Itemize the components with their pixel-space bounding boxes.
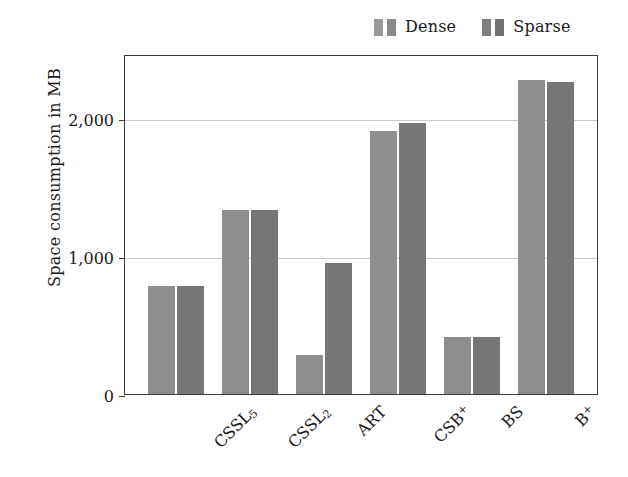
bar-chart-figure: Dense Sparse Space consumption in MB 01,… xyxy=(0,0,628,477)
legend-swatch-sparse-dark xyxy=(495,19,504,36)
legend-label-dense: Dense xyxy=(405,19,456,35)
bar-series-container xyxy=(125,56,597,394)
bar-group xyxy=(370,123,426,394)
legend-entry-sparse: Sparse xyxy=(482,19,570,36)
x-tick-label: B+ xyxy=(571,402,599,430)
bar xyxy=(325,263,352,394)
bar xyxy=(177,286,204,394)
bar xyxy=(296,355,323,394)
bar-group xyxy=(148,286,204,394)
x-tick-label: ART xyxy=(353,402,390,439)
bar xyxy=(148,286,175,394)
bar xyxy=(251,210,278,394)
bar xyxy=(222,210,249,394)
bar xyxy=(518,80,545,394)
legend-swatch-dense-light xyxy=(374,19,383,36)
bar-group xyxy=(222,210,278,394)
chart-legend: Dense Sparse xyxy=(374,14,571,40)
legend-label-sparse: Sparse xyxy=(513,19,570,35)
x-axis-tick-labels: CSSL5CSSL2ARTCSB+BSB+ xyxy=(124,396,598,477)
legend-swatch-dense xyxy=(374,19,396,36)
bar xyxy=(473,337,500,394)
y-axis-title: Space consumption in MB xyxy=(45,13,64,343)
plot-inner: 01,0002,000 xyxy=(125,56,597,394)
bar xyxy=(370,131,397,394)
legend-swatch-sparse-light xyxy=(482,19,491,36)
plot-area: 01,0002,000 xyxy=(124,55,598,395)
y-tick-label-1000: 1,000 xyxy=(68,248,114,267)
y-tick-label-0: 0 xyxy=(104,387,114,406)
bar xyxy=(399,123,426,394)
x-tick-label: CSB+ xyxy=(430,402,475,447)
x-tick-label: CSSL5 xyxy=(210,402,261,453)
x-tick-label: CSSL2 xyxy=(284,402,335,453)
legend-swatch-dense-dark xyxy=(387,19,396,36)
bar-group xyxy=(444,337,500,394)
bar xyxy=(444,337,471,394)
bar xyxy=(547,82,574,394)
y-tick-label-2000: 2,000 xyxy=(68,110,114,129)
legend-entry-dense: Dense xyxy=(374,19,456,36)
legend-swatch-sparse xyxy=(482,19,504,36)
x-tick-label: BS xyxy=(498,402,527,431)
bar-group xyxy=(518,80,574,394)
bar-group xyxy=(296,263,352,394)
